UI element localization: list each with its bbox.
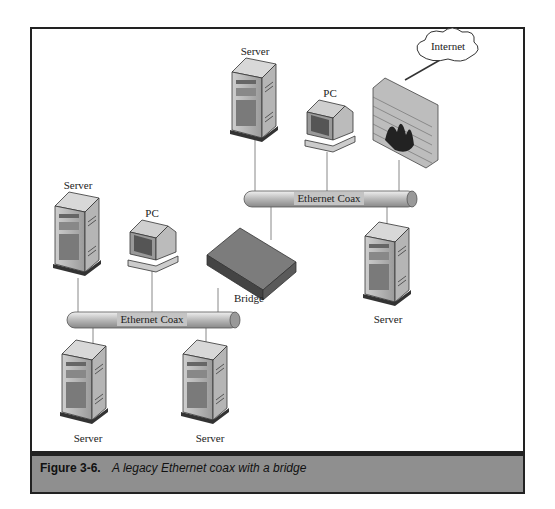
- coax-lower: Ethernet Coax: [67, 312, 240, 328]
- svg-text:Server: Server: [241, 45, 270, 57]
- svg-text:Server: Server: [64, 179, 93, 191]
- server-left: Server: [53, 179, 101, 276]
- server-top: Server: [230, 45, 278, 142]
- bridge-device: Bridge: [207, 228, 296, 304]
- svg-text:Server: Server: [374, 313, 403, 325]
- coax-upper: Ethernet Coax: [244, 191, 417, 207]
- firewall-icon: [373, 78, 438, 168]
- svg-text:Server: Server: [196, 432, 225, 444]
- network-diagram: Ethernet Coax Ethernet Coax Server Serve…: [0, 0, 555, 509]
- svg-text:Server: Server: [74, 432, 103, 444]
- svg-text:Bridge: Bridge: [234, 292, 264, 304]
- svg-text:PC: PC: [145, 207, 158, 219]
- figure-caption: A legacy Ethernet coax with a bridge: [112, 461, 306, 475]
- pc-top: PC: [305, 87, 355, 152]
- figure-number: Figure 3-6.: [40, 461, 101, 475]
- coax-lower-label: Ethernet Coax: [120, 313, 184, 325]
- pc-left: PC: [128, 207, 178, 272]
- svg-text:PC: PC: [323, 87, 336, 99]
- coax-upper-label: Ethernet Coax: [297, 192, 361, 204]
- svg-text:Internet: Internet: [431, 40, 465, 52]
- internet-cloud-icon: Internet: [417, 28, 478, 61]
- server-bottom-left: Server: [60, 340, 108, 444]
- server-bottom-mid: Server: [181, 340, 229, 444]
- server-right: Server: [363, 222, 411, 325]
- figure-caption-bar: Figure 3-6. A legacy Ethernet coax with …: [30, 453, 525, 494]
